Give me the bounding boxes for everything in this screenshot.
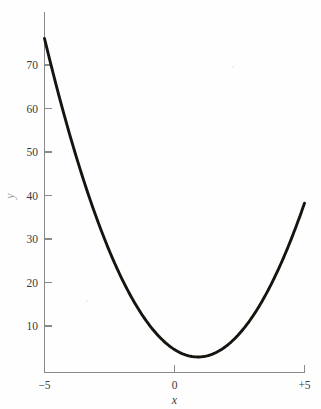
parabola-chart: 10 20 30 40 50 60 70 −5 0 +5 x y bbox=[0, 0, 321, 409]
y-tick-label-60: 60 bbox=[27, 103, 39, 115]
y-tick-label-10: 10 bbox=[27, 320, 39, 332]
y-tick-label-50: 50 bbox=[27, 146, 39, 158]
y-tick-label-70: 70 bbox=[27, 59, 39, 71]
x-tick-label-plus5: +5 bbox=[298, 379, 310, 391]
y-axis-ticks bbox=[45, 65, 53, 326]
x-axis-ticks bbox=[45, 365, 305, 373]
y-tick-label-40: 40 bbox=[27, 190, 39, 202]
scan-speck bbox=[86, 300, 88, 302]
y-axis-title: y bbox=[3, 193, 17, 200]
x-tick-label-minus5: −5 bbox=[38, 379, 50, 391]
y-tick-label-30: 30 bbox=[27, 233, 39, 245]
y-tick-label-20: 20 bbox=[27, 277, 39, 289]
figure-container: 10 20 30 40 50 60 70 −5 0 +5 x y bbox=[0, 0, 321, 409]
x-axis-title: x bbox=[171, 393, 178, 407]
parabola-curve bbox=[45, 38, 305, 356]
scan-speck bbox=[232, 66, 234, 68]
x-tick-label-zero: 0 bbox=[172, 379, 178, 391]
